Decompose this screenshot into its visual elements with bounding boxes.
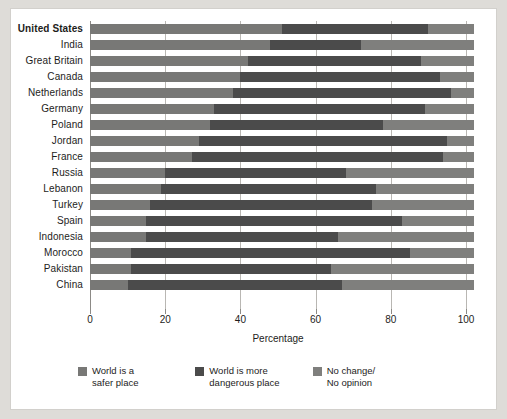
category-label: Poland bbox=[51, 117, 83, 133]
x-tick-label: 80 bbox=[385, 314, 396, 325]
bar-segment bbox=[331, 264, 474, 274]
bar-segment bbox=[150, 200, 372, 210]
bar-segment bbox=[342, 280, 474, 290]
bar-segment bbox=[90, 72, 240, 82]
chart-page: United StatesIndiaGreat BritainCanadaNet… bbox=[0, 0, 507, 419]
chart-card: United StatesIndiaGreat BritainCanadaNet… bbox=[11, 9, 496, 409]
bar-segment bbox=[248, 56, 421, 66]
bar-row: China bbox=[90, 277, 466, 293]
category-label: Jordan bbox=[52, 133, 83, 149]
plot-area: United StatesIndiaGreat BritainCanadaNet… bbox=[90, 21, 466, 309]
bar-segment bbox=[376, 184, 474, 194]
category-label: Lebanon bbox=[43, 181, 83, 197]
bar-segment bbox=[192, 152, 444, 162]
legend-label: World is a safer place bbox=[92, 365, 138, 388]
bar-segment bbox=[90, 40, 270, 50]
bar-segment bbox=[165, 168, 345, 178]
bar-row: Great Britain bbox=[90, 53, 466, 69]
bar-segment bbox=[199, 136, 447, 146]
bar-segment bbox=[128, 280, 342, 290]
bar-segment bbox=[90, 136, 199, 146]
bar-segment bbox=[428, 24, 473, 34]
bar-segment bbox=[90, 56, 248, 66]
category-label: Spain bbox=[57, 213, 83, 229]
bar-track bbox=[90, 72, 466, 82]
bar-segment bbox=[421, 56, 474, 66]
bar-track bbox=[90, 56, 466, 66]
bar-segment bbox=[447, 136, 473, 146]
x-tick-label: 60 bbox=[310, 314, 321, 325]
bar-segment bbox=[90, 152, 192, 162]
category-label: Morocco bbox=[44, 245, 83, 261]
bar-segment bbox=[383, 120, 473, 130]
bar-segment bbox=[161, 184, 375, 194]
bar-track bbox=[90, 152, 466, 162]
category-label: France bbox=[51, 149, 83, 165]
legend-swatch-icon bbox=[195, 367, 204, 376]
bar-track bbox=[90, 104, 466, 114]
bar-segment bbox=[146, 216, 402, 226]
bar-segment bbox=[90, 104, 214, 114]
x-axis-line bbox=[90, 309, 466, 310]
category-label: India bbox=[61, 37, 83, 53]
bar-segment bbox=[425, 104, 474, 114]
legend-item[interactable]: World is a safer place bbox=[78, 365, 173, 388]
bar-segment bbox=[372, 200, 474, 210]
bar-row: Germany bbox=[90, 101, 466, 117]
bar-segment bbox=[240, 72, 439, 82]
bar-track bbox=[90, 248, 466, 258]
category-label: Great Britain bbox=[26, 53, 83, 69]
bar-segment bbox=[361, 40, 474, 50]
bar-segment bbox=[90, 248, 131, 258]
bar-segment bbox=[270, 40, 360, 50]
category-label: Turkey bbox=[52, 197, 83, 213]
bar-row: Spain bbox=[90, 213, 466, 229]
bar-segment bbox=[233, 88, 451, 98]
bar-segment bbox=[90, 168, 165, 178]
bar-segment bbox=[90, 88, 233, 98]
bar-row: Morocco bbox=[90, 245, 466, 261]
bar-segment bbox=[443, 152, 473, 162]
bar-row: Canada bbox=[90, 69, 466, 85]
bar-rows: United StatesIndiaGreat BritainCanadaNet… bbox=[90, 21, 466, 309]
bar-track bbox=[90, 168, 466, 178]
bar-segment bbox=[90, 120, 210, 130]
bar-track bbox=[90, 280, 466, 290]
bar-row: India bbox=[90, 37, 466, 53]
bar-segment bbox=[90, 264, 131, 274]
bar-segment bbox=[90, 184, 161, 194]
bar-segment bbox=[338, 232, 473, 242]
bar-segment bbox=[451, 88, 474, 98]
legend-label: No change/ No opinion bbox=[327, 365, 376, 388]
bar-row: France bbox=[90, 149, 466, 165]
legend-swatch-icon bbox=[313, 367, 322, 376]
x-tick-label: 40 bbox=[235, 314, 246, 325]
category-label: United States bbox=[18, 21, 83, 37]
bar-segment bbox=[131, 264, 330, 274]
x-tick-label: 0 bbox=[87, 314, 93, 325]
bar-segment bbox=[282, 24, 429, 34]
category-label: Russia bbox=[52, 165, 83, 181]
bar-track bbox=[90, 264, 466, 274]
category-label: Pakistan bbox=[44, 261, 83, 277]
bar-row: Indonesia bbox=[90, 229, 466, 245]
bar-segment bbox=[131, 248, 409, 258]
bar-track bbox=[90, 184, 466, 194]
category-label: Indonesia bbox=[39, 229, 83, 245]
category-label: Canada bbox=[47, 69, 83, 85]
bar-row: Pakistan bbox=[90, 261, 466, 277]
bar-row: Turkey bbox=[90, 197, 466, 213]
x-axis-label: Percentage bbox=[90, 333, 466, 344]
legend-item[interactable]: World is more dangerous place bbox=[195, 365, 290, 388]
bar-segment bbox=[90, 200, 150, 210]
bar-segment bbox=[440, 72, 474, 82]
bar-row: United States bbox=[90, 21, 466, 37]
legend-item[interactable]: No change/ No opinion bbox=[313, 365, 408, 388]
chart-legend: World is a safer placeWorld is more dang… bbox=[78, 365, 408, 388]
bar-track bbox=[90, 136, 466, 146]
bar-segment bbox=[402, 216, 473, 226]
bar-segment bbox=[90, 216, 146, 226]
legend-swatch-icon bbox=[78, 367, 87, 376]
bar-row: Jordan bbox=[90, 133, 466, 149]
category-label: Germany bbox=[41, 101, 83, 117]
